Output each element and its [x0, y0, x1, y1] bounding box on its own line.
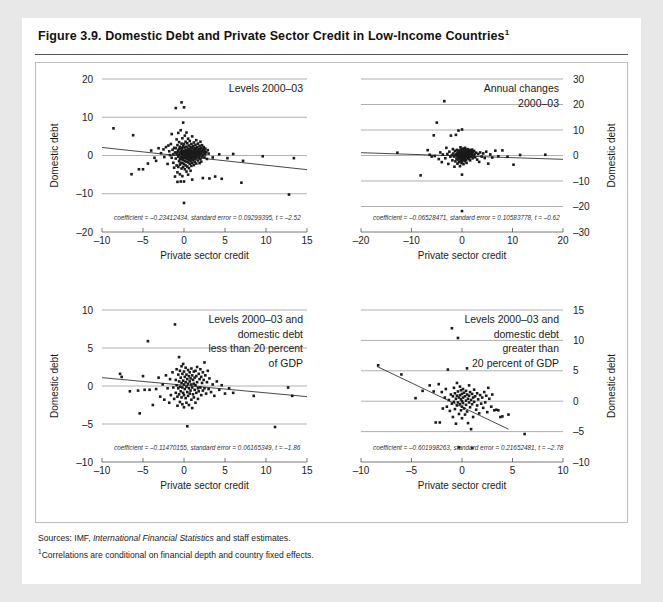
- data-point: [170, 133, 173, 136]
- data-point: [488, 397, 491, 400]
- xtick-label: –10: [94, 235, 111, 246]
- data-point: [216, 380, 219, 383]
- data-point: [202, 379, 205, 382]
- data-point: [191, 161, 194, 164]
- data-point: [457, 390, 460, 393]
- panel-title-line: Annual changes: [484, 82, 559, 94]
- data-point: [453, 387, 456, 390]
- data-point: [452, 395, 455, 398]
- chart-svg-panel-top-left: –20–1001020–10–5051015Private sector cre…: [36, 63, 333, 294]
- data-point: [208, 177, 211, 180]
- data-point: [130, 173, 133, 176]
- data-point: [274, 426, 277, 429]
- ytick-label: –10: [76, 188, 93, 199]
- data-point: [179, 376, 182, 379]
- data-point: [454, 392, 457, 395]
- xtick-label: –5: [137, 235, 149, 246]
- ytick-label: –20: [76, 227, 93, 238]
- ytick-label: 20: [573, 99, 585, 110]
- data-point: [288, 193, 291, 196]
- data-point: [477, 398, 480, 401]
- data-point: [491, 393, 494, 396]
- data-point: [456, 382, 459, 385]
- data-point: [180, 101, 183, 104]
- panel-title-line: 20 percent of GDP: [472, 357, 559, 369]
- data-point: [377, 364, 380, 367]
- data-point: [497, 409, 500, 412]
- data-point: [462, 388, 465, 391]
- x-axis-title: Private sector credit: [160, 480, 249, 491]
- data-point: [183, 143, 186, 146]
- x-axis-title: Private sector credit: [418, 250, 507, 261]
- data-point: [183, 106, 186, 109]
- chart-panel-debt-greater-than-20: –10–5051015–10–50510Private sector credi…: [333, 294, 629, 524]
- data-point: [479, 394, 482, 397]
- data-point: [178, 380, 181, 383]
- y-axis-title: Domestic debt: [49, 354, 60, 418]
- sources-note: Sources: IMF, International Financial St…: [38, 532, 314, 562]
- data-point: [193, 141, 196, 144]
- data-point: [512, 163, 515, 166]
- data-point: [197, 159, 200, 162]
- data-point: [112, 127, 115, 130]
- ytick-label: –5: [82, 419, 94, 430]
- data-point: [451, 327, 454, 330]
- data-point: [187, 137, 190, 140]
- data-point: [211, 156, 214, 159]
- xtick-label: –20: [353, 235, 370, 246]
- data-point: [481, 396, 484, 399]
- data-point: [453, 165, 456, 168]
- data-point: [470, 428, 473, 431]
- data-point: [459, 165, 462, 168]
- ytick-label: –10: [573, 457, 590, 468]
- data-point: [197, 390, 200, 393]
- data-point: [171, 371, 174, 374]
- data-point: [181, 403, 184, 406]
- data-point: [157, 376, 160, 379]
- data-point: [180, 142, 183, 145]
- data-point: [519, 154, 522, 157]
- data-point: [175, 147, 178, 150]
- data-point: [482, 152, 485, 155]
- panel-title-line: 2000–03: [518, 97, 559, 109]
- chart-panel-annual-changes: –30–20–100102030–20–1001020Private secto…: [333, 63, 629, 294]
- data-point: [464, 413, 467, 416]
- data-point: [478, 412, 481, 415]
- data-point: [476, 392, 479, 395]
- data-point: [182, 166, 185, 169]
- data-point: [188, 392, 191, 395]
- xtick-label: 0: [181, 465, 187, 476]
- data-point: [207, 388, 210, 391]
- data-point: [181, 137, 184, 140]
- data-point: [184, 381, 187, 384]
- data-point: [462, 163, 465, 166]
- data-point: [435, 121, 438, 124]
- ytick-label: 0: [87, 381, 93, 392]
- xtick-label: 0: [181, 235, 187, 246]
- data-point: [163, 398, 166, 401]
- data-point: [486, 411, 489, 414]
- data-point: [452, 416, 455, 419]
- xtick-label: 10: [260, 235, 272, 246]
- data-point: [177, 166, 180, 169]
- data-point: [447, 368, 450, 371]
- data-point: [193, 389, 196, 392]
- data-point: [261, 155, 264, 158]
- data-point: [162, 148, 165, 151]
- data-point: [232, 392, 235, 395]
- data-point: [176, 144, 179, 147]
- data-point: [205, 392, 208, 395]
- data-point: [166, 387, 169, 390]
- data-point: [175, 368, 178, 371]
- data-point: [195, 375, 198, 378]
- scatter-points: [112, 101, 295, 204]
- data-point: [180, 396, 183, 399]
- data-point: [487, 387, 490, 390]
- data-point: [120, 376, 123, 379]
- data-point: [468, 401, 471, 404]
- data-point: [163, 156, 166, 159]
- data-point: [204, 374, 207, 377]
- data-point: [184, 397, 187, 400]
- data-point: [202, 153, 205, 156]
- data-point: [194, 143, 197, 146]
